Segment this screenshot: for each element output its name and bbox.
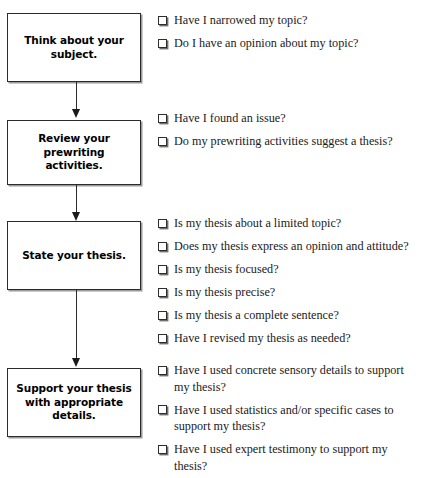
arrow-head-icon: [72, 212, 80, 221]
connector-arrow-1: [72, 82, 81, 118]
process-box-state-thesis[interactable]: State your thesis.: [7, 221, 141, 290]
process-box-label: Think about your subject.: [8, 34, 140, 61]
flowchart-diagram: Think about your subject. Have I narrowe…: [0, 0, 422, 478]
connector-arrow-3: [72, 290, 81, 367]
checklist-item[interactable]: Have I revised my thesis as needed?: [158, 330, 420, 347]
arrow-shaft: [76, 290, 77, 358]
checkbox-icon[interactable]: [158, 311, 167, 320]
checkbox-icon[interactable]: [158, 288, 167, 297]
checklist-item-label: Does my thesis express an opinion and at…: [174, 239, 409, 253]
checklist-review-prewriting: Have I found an issue? Do my prewriting …: [158, 110, 420, 150]
checklist-item-label: Is my thesis precise?: [174, 285, 275, 299]
connector-arrow-2: [72, 185, 81, 221]
checkbox-icon[interactable]: [158, 137, 167, 146]
process-box-label: Review your prewriting activities.: [8, 132, 140, 173]
checklist-item-label: Is my thesis focused?: [174, 262, 279, 276]
checklist-item[interactable]: Do my prewriting activities suggest a th…: [158, 133, 420, 150]
checklist-item-label: Do I have an opinion about my topic?: [174, 36, 358, 50]
checkbox-icon[interactable]: [158, 16, 167, 25]
process-box-support-thesis[interactable]: Support your thesis with appropriate det…: [7, 368, 141, 437]
checklist-item-label: Have I used expert testimony to support …: [174, 442, 388, 473]
checklist-item-label: Have I used concrete sensory details to …: [174, 363, 404, 394]
checklist-item-label: Have I used statistics and/or specific c…: [174, 403, 394, 434]
checkbox-icon[interactable]: [158, 114, 167, 123]
checklist-item[interactable]: Have I used concrete sensory details to …: [158, 362, 420, 395]
checklist-item[interactable]: Have I used expert testimony to support …: [158, 441, 420, 474]
arrow-shaft: [76, 82, 77, 109]
checkbox-icon[interactable]: [158, 219, 167, 228]
checklist-item[interactable]: Is my thesis a complete sentence?: [158, 307, 420, 324]
checkbox-icon[interactable]: [158, 334, 167, 343]
checklist-item-label: Have I found an issue?: [174, 111, 286, 125]
checklist-item[interactable]: Is my thesis focused?: [158, 261, 420, 278]
checklist-item[interactable]: Is my thesis about a limited topic?: [158, 215, 420, 232]
checklist-item[interactable]: Have I used statistics and/or specific c…: [158, 402, 420, 435]
checklist-state-thesis: Is my thesis about a limited topic? Does…: [158, 215, 420, 347]
process-box-think-about-subject[interactable]: Think about your subject.: [7, 13, 141, 82]
checklist-item[interactable]: Have I narrowed my topic?: [158, 12, 420, 29]
process-box-review-prewriting[interactable]: Review your prewriting activities.: [7, 120, 141, 185]
checklist-item[interactable]: Is my thesis precise?: [158, 284, 420, 301]
checklist-think-about-subject: Have I narrowed my topic? Do I have an o…: [158, 12, 420, 52]
checklist-support-thesis: Have I used concrete sensory details to …: [158, 362, 420, 474]
checklist-item[interactable]: Have I found an issue?: [158, 110, 420, 127]
checkbox-icon[interactable]: [158, 39, 167, 48]
arrow-shaft: [76, 185, 77, 212]
checklist-item-label: Have I revised my thesis as needed?: [174, 331, 351, 345]
checklist-item-label: Is my thesis a complete sentence?: [174, 308, 339, 322]
process-box-label: Support your thesis with appropriate det…: [8, 382, 140, 423]
checklist-item-label: Have I narrowed my topic?: [174, 13, 307, 27]
checklist-item-label: Is my thesis about a limited topic?: [174, 216, 341, 230]
checkbox-icon[interactable]: [158, 242, 167, 251]
checklist-item[interactable]: Do I have an opinion about my topic?: [158, 35, 420, 52]
arrow-head-icon: [72, 109, 80, 118]
checklist-item-label: Do my prewriting activities suggest a th…: [174, 134, 393, 148]
checkbox-icon[interactable]: [158, 366, 167, 375]
checkbox-icon[interactable]: [158, 265, 167, 274]
checkbox-icon[interactable]: [158, 445, 167, 454]
arrow-head-icon: [72, 358, 80, 367]
process-box-label: State your thesis.: [16, 249, 132, 263]
checklist-item[interactable]: Does my thesis express an opinion and at…: [158, 238, 420, 255]
checkbox-icon[interactable]: [158, 405, 167, 414]
